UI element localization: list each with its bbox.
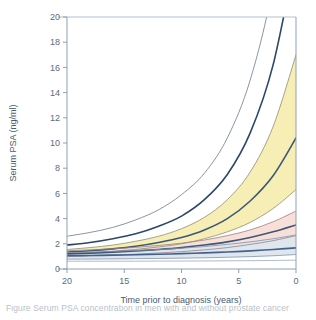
x-tick-label: 10 (176, 276, 186, 286)
y-tick-label: 4 (55, 214, 60, 224)
figure-caption: Figure Serum PSA concentration in men wi… (6, 305, 289, 313)
y-tick-label: 8 (55, 163, 60, 173)
x-tick-label: 5 (236, 276, 241, 286)
curve-3-yellow-upper (67, 55, 296, 250)
y-tick-label: 0 (55, 264, 60, 274)
x-tick-label: 15 (119, 276, 129, 286)
x-tick-label: 20 (62, 276, 72, 286)
psa-trajectory-chart: 02468101214161820 20151050 Serum PSA (ng… (0, 0, 316, 320)
y-axis-title: Serum PSA (ng/ml) (8, 104, 18, 181)
y-tick-label: 14 (50, 88, 60, 98)
x-tick-label: 0 (293, 276, 298, 286)
y-axis-ticks: 02468101214161820 (50, 12, 67, 274)
trajectory-curves-layer (67, 0, 296, 261)
y-tick-label: 6 (55, 189, 60, 199)
band-yellow (67, 55, 296, 254)
y-tick-label: 10 (50, 138, 60, 148)
figure-caption-strip: Figure Serum PSA concentration in men wi… (0, 305, 316, 320)
y-tick-label: 12 (50, 113, 60, 123)
curve-12-baseline (67, 260, 296, 261)
x-axis-ticks: 20151050 (62, 269, 299, 286)
y-tick-label: 18 (50, 37, 60, 47)
y-tick-label: 16 (50, 63, 60, 73)
y-tick-label: 20 (50, 12, 60, 22)
figure-container: 02468101214161820 20151050 Serum PSA (ng… (0, 0, 316, 320)
y-tick-label: 2 (55, 239, 60, 249)
x-axis-title: Time prior to diagnosis (years) (120, 295, 241, 305)
